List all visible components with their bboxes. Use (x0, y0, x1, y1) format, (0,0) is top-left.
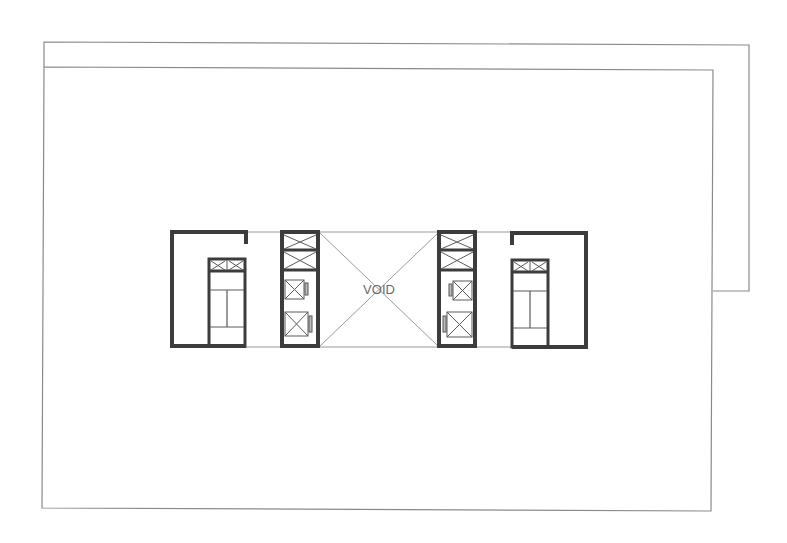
stair-icon (210, 290, 244, 327)
right-stair-core (512, 233, 586, 347)
left-stair-core (172, 232, 246, 346)
duct-shaft-icon (514, 261, 546, 271)
duct-shaft-icon (211, 260, 243, 270)
void-label: VOID (363, 282, 395, 297)
lift-icon (285, 312, 312, 336)
stair-icon (513, 291, 547, 328)
lift-icon (285, 280, 308, 299)
lift-icon (443, 312, 472, 337)
duct-shaft-icon (284, 235, 316, 269)
duct-shaft-icon (441, 235, 473, 269)
upper-slab-outline (44, 42, 749, 291)
lift-icon (449, 281, 472, 300)
left-lift-core (282, 232, 318, 346)
floor-plan-diagram: VOID (0, 0, 787, 543)
void-area: VOID (320, 233, 438, 346)
right-lift-core (439, 232, 475, 346)
